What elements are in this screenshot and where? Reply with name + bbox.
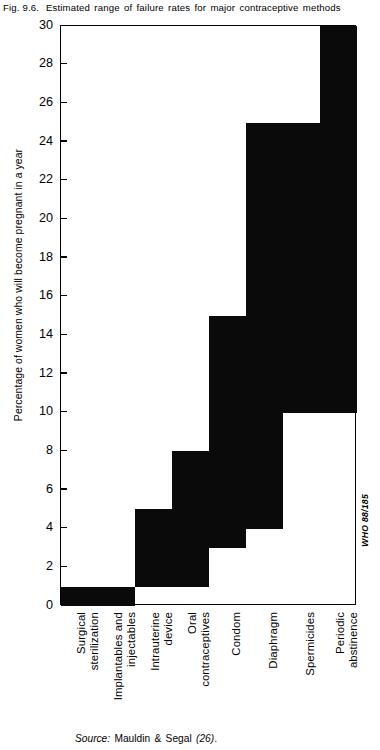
y-tick-mark bbox=[60, 218, 67, 220]
figure-title: Estimated range of failure rates for maj… bbox=[46, 2, 341, 13]
x-axis-label: injectables bbox=[125, 612, 138, 667]
y-tick-mark bbox=[60, 179, 67, 181]
y-tick-mark bbox=[60, 256, 67, 258]
y-tick-label: 2 bbox=[13, 560, 53, 573]
bar-diaphragm bbox=[246, 123, 283, 529]
x-axis-label: device bbox=[162, 612, 175, 646]
bar-surgical-sterilization bbox=[61, 587, 98, 606]
x-axis-label: Diaphragm bbox=[267, 612, 280, 669]
figure-caption: Fig. 9.6.Estimated range of failure rate… bbox=[3, 2, 377, 14]
y-tick-mark bbox=[60, 566, 67, 568]
y-tick-label: 22 bbox=[13, 173, 53, 186]
y-tick-mark bbox=[60, 488, 67, 490]
y-tick-label: 10 bbox=[13, 405, 53, 418]
x-axis-label: contraceptives bbox=[199, 612, 212, 687]
source-label: Source: bbox=[75, 733, 110, 744]
source-line: Source: Mauldin & Segal (26). bbox=[75, 733, 217, 744]
y-tick-label: 12 bbox=[13, 367, 53, 380]
y-tick-mark bbox=[60, 102, 67, 104]
figure-page: Fig. 9.6.Estimated range of failure rate… bbox=[0, 0, 380, 750]
y-tick-label: 0 bbox=[13, 599, 53, 612]
bar-oral-contraceptives bbox=[172, 451, 209, 586]
y-tick-label: 6 bbox=[13, 483, 53, 496]
y-axis-title: Percentage of women who will become preg… bbox=[13, 120, 25, 450]
y-tick-label: 14 bbox=[13, 328, 53, 341]
y-tick-label: 8 bbox=[13, 444, 53, 457]
bar-implantables-and-injectables bbox=[98, 587, 135, 606]
x-axis-label: Periodic bbox=[334, 612, 347, 654]
who-reference-code: WHO 88/185 bbox=[360, 494, 370, 547]
y-tick-mark bbox=[60, 411, 67, 413]
bar-intrauterine-device bbox=[135, 509, 172, 586]
chart-plot-area bbox=[60, 25, 356, 605]
x-axis-label: abstinence bbox=[347, 612, 360, 668]
y-tick-mark bbox=[60, 527, 67, 529]
source-period: . bbox=[214, 733, 217, 744]
x-axis-label: Spermicides bbox=[304, 612, 317, 676]
y-tick-label: 20 bbox=[13, 212, 53, 225]
bar-periodic-abstinence bbox=[320, 26, 357, 413]
y-tick-label: 16 bbox=[13, 289, 53, 302]
y-tick-mark bbox=[60, 372, 67, 374]
bar-spermicides bbox=[283, 123, 320, 413]
y-tick-label: 4 bbox=[13, 521, 53, 534]
y-tick-label: 30 bbox=[13, 19, 53, 32]
source-text: Mauldin & Segal bbox=[114, 733, 191, 744]
x-axis-label: Oral bbox=[186, 612, 199, 634]
x-axis-label: Condom bbox=[230, 612, 243, 656]
x-axis-label: Implantables and bbox=[112, 612, 125, 700]
y-tick-label: 18 bbox=[13, 251, 53, 264]
y-tick-mark bbox=[60, 450, 67, 452]
x-axis-label: sterilization bbox=[88, 612, 101, 670]
x-axis-label: Intrauterine bbox=[149, 612, 162, 671]
y-tick-label: 28 bbox=[13, 57, 53, 70]
bar-condom bbox=[209, 316, 246, 548]
y-tick-mark bbox=[60, 334, 67, 336]
y-tick-label: 24 bbox=[13, 135, 53, 148]
x-axis-label: Surgical bbox=[75, 612, 88, 654]
figure-number: Fig. 9.6. bbox=[3, 2, 39, 13]
y-tick-mark bbox=[60, 63, 67, 65]
source-reference: (26) bbox=[196, 733, 214, 744]
y-tick-mark bbox=[60, 140, 67, 142]
y-tick-mark bbox=[60, 295, 67, 297]
y-tick-label: 26 bbox=[13, 96, 53, 109]
